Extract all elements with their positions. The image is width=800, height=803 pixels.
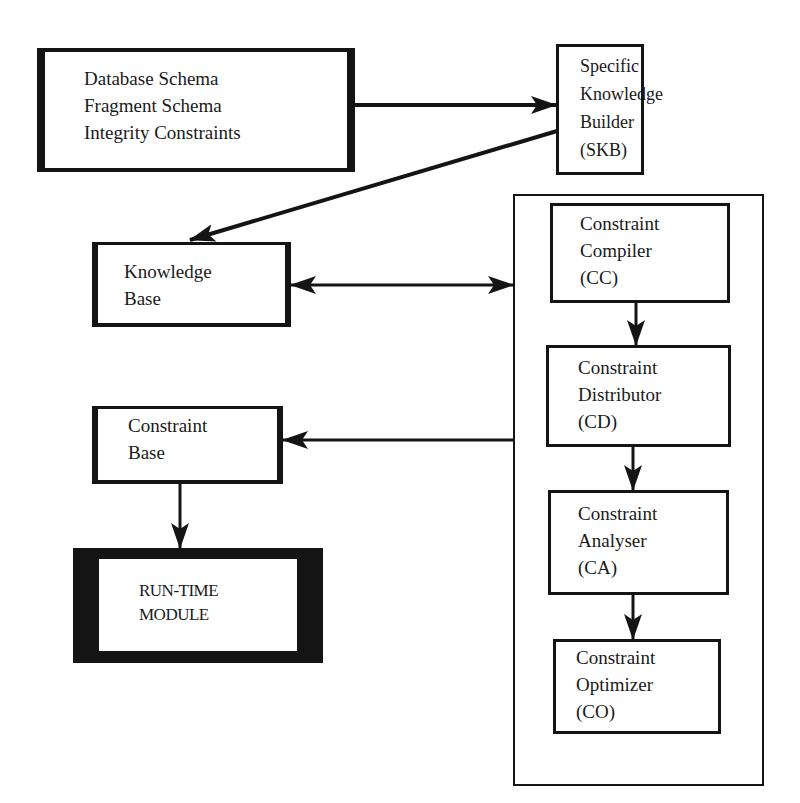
co-line-3: (CO): [576, 698, 655, 725]
co-line-1: Constraint: [576, 644, 655, 671]
constraint-base-line-1: Constraint: [128, 412, 207, 439]
skb-line-1: Specific: [580, 52, 663, 80]
constraint-distributor-label: Constraint Distributor (CD): [578, 354, 661, 435]
knowledge-base-line-1: Knowledge: [124, 258, 212, 285]
cc-line-1: Constraint: [580, 210, 659, 237]
run-time-line-2: MODULE: [139, 603, 218, 627]
cc-line-2: Compiler: [580, 237, 659, 264]
schema-line-fragment: Fragment Schema: [84, 92, 241, 119]
schema-line-integrity: Integrity Constraints: [84, 119, 241, 146]
constraint-analyser-label: Constraint Analyser (CA): [578, 500, 657, 581]
constraint-compiler-label: Constraint Compiler (CC): [580, 210, 659, 291]
co-line-2: Optimizer: [576, 671, 655, 698]
skb-line-4: (SKB): [580, 136, 663, 164]
cd-line-2: Distributor: [578, 381, 661, 408]
knowledge-base-label: Knowledge Base: [124, 258, 212, 312]
constraint-base-line-2: Base: [128, 439, 207, 466]
cd-line-1: Constraint: [578, 354, 661, 381]
constraint-base-label: Constraint Base: [128, 412, 207, 466]
cc-line-3: (CC): [580, 264, 659, 291]
ca-line-3: (CA): [578, 554, 657, 581]
schema-line-database: Database Schema: [84, 65, 241, 92]
skb-line-2: Knowledge: [580, 80, 663, 108]
schema-input-label: Database Schema Fragment Schema Integrit…: [84, 65, 241, 146]
ca-line-1: Constraint: [578, 500, 657, 527]
skb-label: Specific Knowledge Builder (SKB): [580, 52, 663, 164]
run-time-module-label: RUN-TIME MODULE: [139, 579, 218, 627]
run-time-line-1: RUN-TIME: [139, 579, 218, 603]
cd-line-3: (CD): [578, 408, 661, 435]
ca-line-2: Analyser: [578, 527, 657, 554]
constraint-optimizer-label: Constraint Optimizer (CO): [576, 644, 655, 725]
skb-line-3: Builder: [580, 108, 663, 136]
knowledge-base-line-2: Base: [124, 285, 212, 312]
